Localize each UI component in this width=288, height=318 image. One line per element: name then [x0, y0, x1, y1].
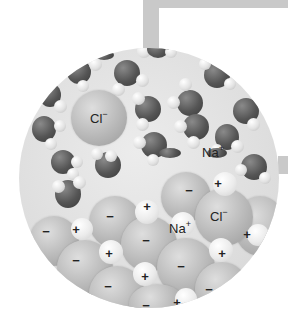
- lattice-plus-sign: +: [243, 228, 251, 241]
- lattice-plus-sign: +: [143, 200, 151, 213]
- free-sodium-label: Na+: [202, 144, 224, 159]
- nacl-dissolution-diagram: Cl− Na+ − + +: [0, 0, 288, 318]
- lattice-plus-sign: +: [72, 223, 80, 236]
- lattice-plus-sign: +: [218, 247, 226, 260]
- lattice-minus-sign: −: [104, 280, 112, 293]
- callout-frame-right-stub: [278, 156, 288, 174]
- lattice-plus-sign: +: [141, 270, 149, 283]
- callout-frame-left: [143, 0, 159, 48]
- lattice-minus-sign: −: [185, 184, 193, 197]
- free-chloride-label: Cl−: [90, 110, 108, 125]
- lattice-chloride-label: Cl−: [210, 208, 228, 223]
- magnified-view-circle: Cl− Na+ − + +: [19, 48, 279, 308]
- lattice-plus-sign: +: [214, 177, 222, 190]
- lattice-minus-sign: −: [106, 210, 114, 223]
- lattice-minus-sign: −: [42, 225, 50, 238]
- lattice-minus-sign: −: [205, 283, 213, 296]
- lattice-minus-sign: −: [142, 234, 150, 247]
- lattice-sodium-label: Na+: [169, 220, 191, 235]
- lattice-minus-sign: −: [142, 299, 150, 309]
- callout-frame-top: [143, 0, 288, 8]
- lattice-minus-sign: −: [72, 254, 80, 267]
- lattice-plus-sign: +: [105, 247, 113, 260]
- lattice-minus-sign: −: [177, 260, 185, 273]
- lattice-plus-sign: +: [173, 296, 181, 309]
